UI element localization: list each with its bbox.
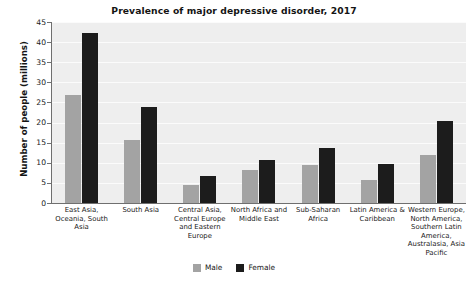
y-tick-mark	[47, 42, 51, 43]
y-tick-mark	[47, 123, 51, 124]
legend-label: Female	[248, 263, 275, 272]
bars-layer	[52, 22, 466, 203]
bar-male	[183, 185, 199, 203]
bar-female	[378, 164, 394, 203]
bar-group	[407, 22, 466, 203]
legend-entry[interactable]: Female	[236, 263, 275, 272]
y-tick-mark	[47, 203, 51, 204]
y-tick-label: 25	[6, 98, 46, 107]
bar-female	[141, 107, 157, 203]
bar-group	[170, 22, 229, 203]
bar-male	[242, 170, 258, 203]
y-tick-label: 20	[6, 118, 46, 127]
y-tick-label: 35	[6, 58, 46, 67]
legend-label: Male	[205, 263, 223, 272]
bar-female	[259, 160, 275, 203]
y-tick-label: 30	[6, 78, 46, 87]
chart-figure: Prevalence of major depressive disorder,…	[0, 0, 468, 293]
bar-group	[52, 22, 111, 203]
legend-entry[interactable]: Male	[193, 263, 223, 272]
x-tick-label: Central Asia, Central Europe and Eastern…	[170, 206, 229, 240]
bar-group	[289, 22, 348, 203]
y-tick-mark	[47, 183, 51, 184]
x-tick-label: Western Europe, North America, Southern …	[407, 206, 466, 258]
y-tick-label: 5	[6, 178, 46, 187]
bar-male	[420, 155, 436, 203]
chart-title: Prevalence of major depressive disorder,…	[0, 5, 468, 16]
bar-male	[124, 140, 140, 203]
bar-male	[361, 180, 377, 203]
bar-group	[111, 22, 170, 203]
y-tick-label: 10	[6, 158, 46, 167]
bar-group	[348, 22, 407, 203]
x-tick-label: East Asia, Oceania, South Asia	[52, 206, 111, 232]
y-tick-mark	[47, 102, 51, 103]
y-tick-mark	[47, 143, 51, 144]
chart-legend: MaleFemale	[0, 263, 468, 272]
x-axis-line	[51, 203, 466, 204]
bar-female	[319, 148, 335, 203]
bar-group	[229, 22, 288, 203]
bar-male	[65, 95, 81, 203]
y-tick-mark	[47, 62, 51, 63]
x-tick-label: South Asia	[111, 206, 170, 215]
y-tick-mark	[47, 22, 51, 23]
bar-female	[200, 176, 216, 203]
y-tick-label: 0	[6, 199, 46, 208]
y-tick-label: 40	[6, 38, 46, 47]
bar-female	[437, 121, 453, 203]
bar-female	[82, 33, 98, 203]
bar-male	[302, 165, 318, 203]
legend-swatch-icon	[236, 264, 244, 272]
x-tick-label: North Africa and Middle East	[229, 206, 288, 223]
x-tick-label: Latin America & Caribbean	[348, 206, 407, 223]
y-tick-mark	[47, 163, 51, 164]
x-tick-label: Sub-Saharan Africa	[289, 206, 348, 223]
y-tick-label: 45	[6, 18, 46, 27]
y-tick-mark	[47, 82, 51, 83]
legend-swatch-icon	[193, 264, 201, 272]
y-tick-label: 15	[6, 138, 46, 147]
